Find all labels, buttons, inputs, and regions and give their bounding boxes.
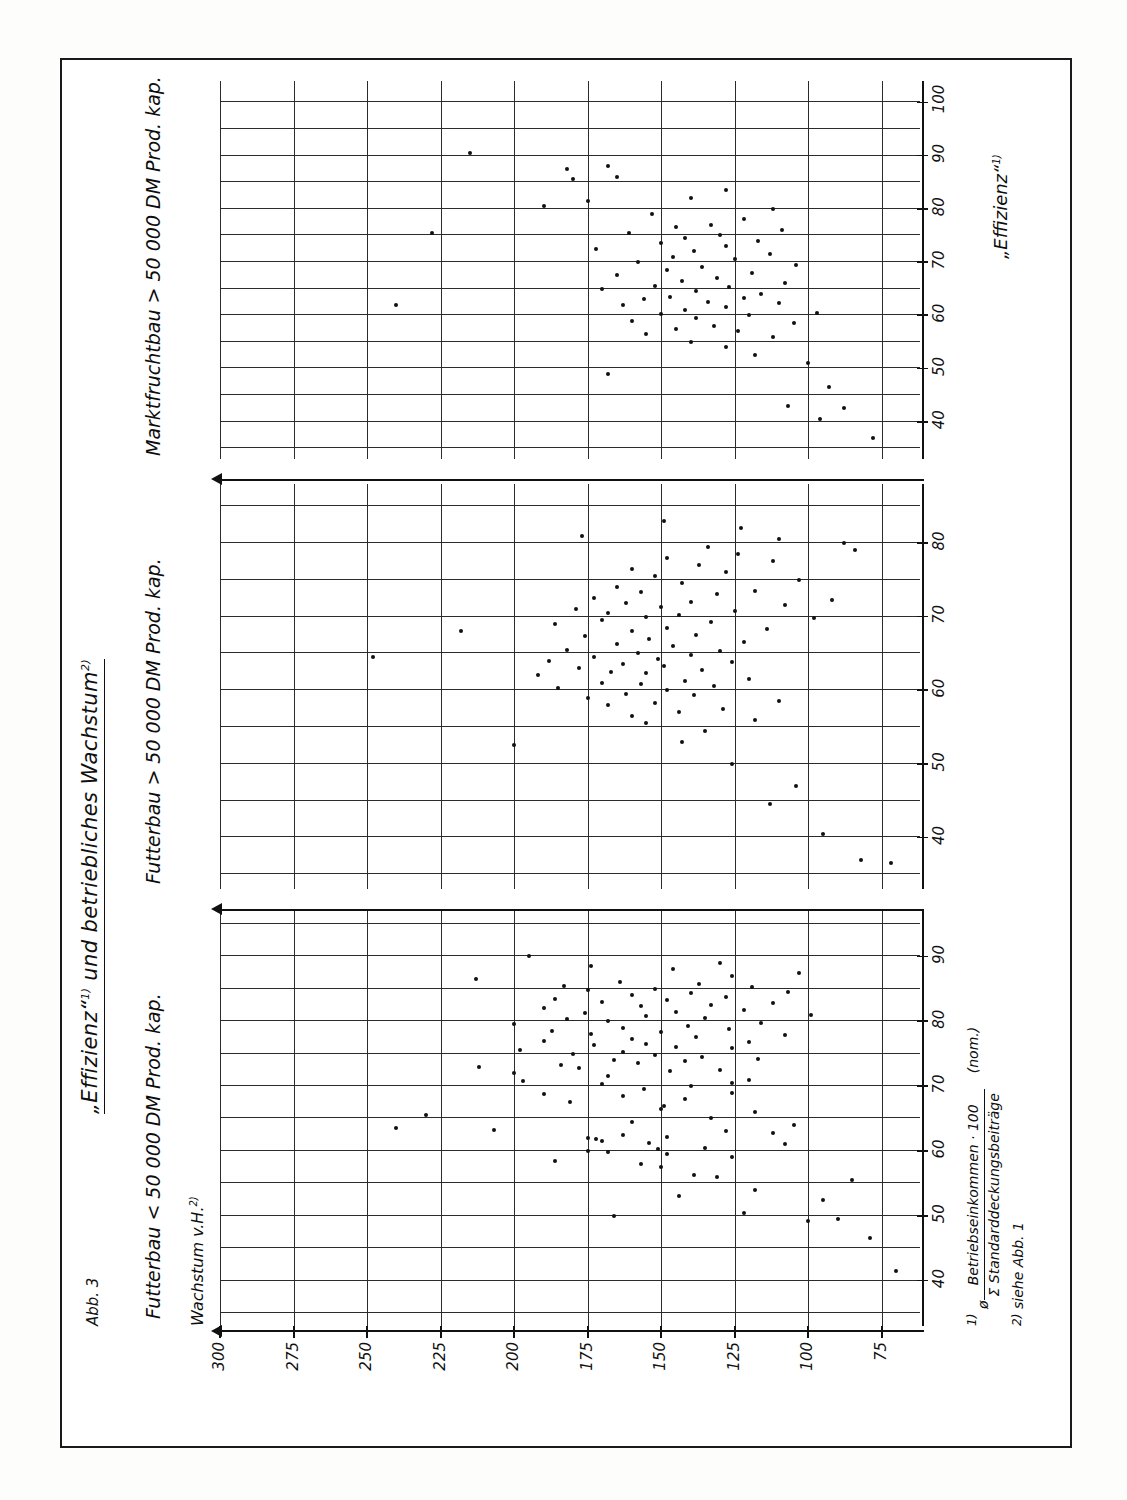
data-point — [594, 1137, 598, 1141]
gridline-vertical — [220, 689, 920, 690]
y-axis-tick-label: 125 — [725, 1342, 743, 1382]
data-point — [747, 677, 751, 681]
footnote-2-text: siehe Abb. 1 — [1010, 1222, 1028, 1309]
x-axis-tick — [917, 368, 928, 370]
data-point — [621, 1133, 625, 1137]
data-point — [606, 1074, 610, 1078]
data-point — [756, 239, 760, 243]
footnote-1-numerator: Betriebseinkommen · 100 — [965, 1089, 985, 1300]
x-axis-line — [922, 484, 924, 889]
data-point — [692, 249, 696, 253]
data-point — [712, 324, 716, 328]
x-axis-title: „Effizienz“1) — [990, 154, 1011, 259]
y-axis-tick — [881, 1326, 883, 1338]
data-point — [742, 640, 746, 644]
data-point — [565, 167, 569, 171]
gridline-vertical — [220, 1182, 920, 1183]
data-point — [606, 1150, 610, 1154]
data-point — [542, 1006, 546, 1010]
x-axis-tick — [917, 837, 928, 839]
y-axis-tick-label: 300 — [210, 1342, 228, 1382]
data-point — [836, 1217, 840, 1221]
data-point — [592, 596, 596, 600]
x-axis-tick-label: 40 — [930, 407, 948, 433]
y-axis-tick-label: 200 — [504, 1342, 522, 1382]
x-axis-tick — [917, 1280, 928, 1282]
data-point — [709, 1117, 713, 1121]
data-point — [630, 1120, 634, 1124]
data-point — [712, 685, 716, 689]
x-axis-tick-label: 80 — [930, 1006, 948, 1032]
data-point — [730, 1155, 734, 1159]
gridline-vertical — [220, 208, 920, 209]
gridline-horizontal — [220, 81, 221, 459]
data-point — [512, 1071, 516, 1075]
gridline-horizontal — [882, 81, 883, 459]
data-point — [694, 289, 698, 293]
data-point — [692, 693, 696, 697]
data-point — [621, 1026, 625, 1030]
data-point — [639, 1162, 643, 1166]
data-point — [659, 1030, 663, 1034]
y-axis-tick-label: 75 — [872, 1342, 890, 1382]
footnote-1-suffix: (nom.) — [965, 1027, 983, 1073]
y-axis-title: Wachstum v.H.2) — [188, 1196, 207, 1326]
data-point — [521, 1079, 525, 1083]
data-point — [542, 1092, 546, 1096]
data-point — [592, 1043, 596, 1047]
panel-separator-arrow-icon — [211, 474, 222, 486]
x-axis-tick-label: 40 — [930, 822, 948, 848]
gridline-vertical — [220, 1312, 920, 1313]
data-point — [615, 273, 619, 277]
data-point — [759, 1021, 763, 1025]
gridline-horizontal — [735, 81, 736, 459]
panel-title-2: Futterbau > 50 000 DM Prod. kap. — [142, 558, 164, 884]
x-axis-line — [922, 911, 924, 1326]
data-point — [589, 964, 593, 968]
data-point — [680, 279, 684, 283]
data-point — [671, 644, 675, 648]
data-point — [665, 1152, 669, 1156]
data-point — [586, 988, 590, 992]
data-point — [492, 1128, 496, 1132]
data-point — [753, 1110, 757, 1114]
gridline-horizontal — [661, 911, 662, 1326]
x-axis-tick — [917, 261, 928, 263]
x-axis-tick-label: 80 — [930, 528, 948, 554]
data-point — [715, 592, 719, 596]
data-point — [668, 1069, 672, 1073]
gridline-vertical — [220, 652, 920, 653]
data-point — [736, 552, 740, 556]
gridline-horizontal — [808, 484, 809, 889]
data-point — [730, 762, 734, 766]
x-axis-tick — [917, 542, 928, 544]
data-point — [783, 1142, 787, 1146]
data-point — [680, 740, 684, 744]
gridline-horizontal — [294, 81, 295, 459]
data-point — [562, 984, 566, 988]
data-point — [718, 1068, 722, 1072]
data-point — [777, 301, 781, 305]
data-point — [809, 1013, 813, 1017]
data-point — [468, 151, 472, 155]
data-point — [683, 308, 687, 312]
gridline-horizontal — [294, 484, 295, 889]
data-point — [697, 982, 701, 986]
data-point — [662, 664, 666, 668]
gridline-horizontal — [367, 484, 368, 889]
title-sup-1: 1) — [79, 988, 92, 1000]
scatter-panel-2: 4050607080 — [220, 484, 920, 889]
gridline-horizontal — [220, 911, 221, 1326]
data-point — [753, 353, 757, 357]
data-point — [859, 858, 863, 862]
data-point — [606, 611, 610, 615]
x-axis-tick-label: 90 — [930, 941, 948, 967]
data-point — [636, 260, 640, 264]
gridline-horizontal — [588, 484, 589, 889]
data-point — [724, 1129, 728, 1133]
data-point — [639, 590, 643, 594]
data-point — [794, 263, 798, 267]
data-point — [639, 1004, 643, 1008]
data-point — [430, 231, 434, 235]
gridline-vertical — [220, 836, 920, 837]
